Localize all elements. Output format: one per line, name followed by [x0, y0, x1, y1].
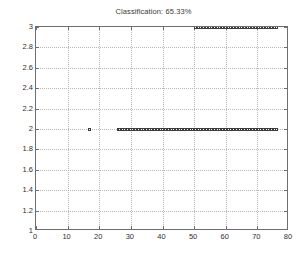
data-point-marker — [47, 230, 50, 231]
data-point-marker — [55, 230, 58, 231]
y-tickmark — [284, 27, 287, 28]
data-point-marker — [79, 230, 82, 231]
y-tickmark — [36, 149, 39, 150]
data-point-marker — [90, 230, 93, 231]
classification-scatter-figure: Classification: 65.33% 01020304050607080… — [0, 0, 307, 260]
y-tick-label: 3 — [29, 22, 33, 31]
data-point-marker — [77, 230, 80, 231]
data-point-marker — [275, 26, 278, 29]
y-tickmark — [284, 149, 287, 150]
data-point-marker — [71, 230, 74, 231]
y-tickmark — [36, 88, 39, 89]
plot-area — [35, 26, 288, 230]
data-point-marker — [63, 230, 66, 231]
y-tick-label: 1.6 — [23, 164, 33, 173]
gridline-horizontal — [36, 47, 287, 48]
x-tick-label: 80 — [284, 232, 292, 241]
data-point-marker — [41, 230, 44, 231]
data-point-marker — [39, 230, 42, 231]
gridline-horizontal — [36, 170, 287, 171]
x-tickmark — [163, 27, 164, 30]
y-tickmark — [284, 88, 287, 89]
x-tickmark — [257, 226, 258, 229]
y-tickmark — [284, 109, 287, 110]
x-tickmark — [163, 226, 164, 229]
x-tick-label: 50 — [189, 232, 197, 241]
x-tick-label: 0 — [33, 232, 37, 241]
data-point-marker — [80, 230, 83, 231]
data-point-marker — [68, 230, 71, 231]
y-tickmark — [36, 109, 39, 110]
y-tickmark — [284, 129, 287, 130]
data-point-marker — [95, 230, 98, 231]
x-tickmark — [131, 27, 132, 30]
y-tick-label: 2.6 — [23, 62, 33, 71]
data-point-marker — [69, 230, 72, 231]
y-tickmark — [36, 47, 39, 48]
gridline-horizontal — [36, 190, 287, 191]
data-point-marker — [49, 230, 52, 231]
data-point-marker — [46, 230, 49, 231]
x-tickmark — [194, 226, 195, 229]
y-tick-label: 2.4 — [23, 83, 33, 92]
data-point-marker — [38, 230, 41, 231]
gridline-vertical — [68, 27, 69, 229]
x-tickmark — [131, 226, 132, 229]
data-point-marker — [110, 230, 113, 231]
data-point-marker — [65, 230, 68, 231]
data-point-marker — [88, 128, 91, 131]
y-tick-label: 2.8 — [23, 42, 33, 51]
data-point-marker — [99, 230, 102, 231]
data-point-marker — [66, 230, 69, 231]
data-point-marker — [87, 230, 90, 231]
data-point-marker — [93, 230, 96, 231]
data-point-marker — [74, 230, 77, 231]
x-tick-label: 20 — [94, 232, 102, 241]
data-point-marker — [96, 230, 99, 231]
x-tickmark — [99, 27, 100, 30]
data-point-marker — [106, 230, 109, 231]
data-point-marker — [115, 230, 118, 231]
data-point-marker — [107, 230, 110, 231]
chart-title: Classification: 65.33% — [0, 7, 307, 16]
y-tickmark — [36, 211, 39, 212]
y-tick-label: 1 — [29, 226, 33, 235]
y-tick-label: 2 — [29, 124, 33, 133]
data-point-marker — [61, 230, 64, 231]
data-point-marker — [109, 230, 112, 231]
gridline-horizontal — [36, 109, 287, 110]
data-point-marker — [72, 230, 75, 231]
data-point-marker — [98, 230, 101, 231]
y-tick-label: 2.2 — [23, 103, 33, 112]
data-point-marker — [91, 230, 94, 231]
y-tickmark — [284, 68, 287, 69]
y-tickmark — [284, 47, 287, 48]
data-point-marker — [44, 230, 47, 231]
data-point-marker — [104, 230, 107, 231]
data-point-marker — [117, 230, 120, 231]
y-tickmark — [284, 190, 287, 191]
data-point-marker — [50, 230, 53, 231]
x-tick-label: 10 — [62, 232, 70, 241]
y-tickmark — [36, 190, 39, 191]
y-tickmark — [284, 211, 287, 212]
data-point-marker — [275, 128, 278, 131]
data-point-marker — [114, 230, 117, 231]
data-point-marker — [58, 230, 61, 231]
y-tickmark — [36, 68, 39, 69]
gridline-horizontal — [36, 149, 287, 150]
gridline-vertical — [99, 27, 100, 229]
y-tickmark — [36, 170, 39, 171]
data-point-marker — [101, 230, 104, 231]
data-point-marker — [88, 230, 91, 231]
gridline-horizontal — [36, 88, 287, 89]
gridline-horizontal — [36, 211, 287, 212]
y-tickmark — [36, 27, 39, 28]
data-point-marker — [53, 230, 56, 231]
x-tick-label: 30 — [126, 232, 134, 241]
data-point-marker — [102, 230, 105, 231]
y-tickmark — [36, 129, 39, 130]
x-tickmark — [68, 27, 69, 30]
y-tick-label: 1.2 — [23, 205, 33, 214]
data-point-marker — [82, 230, 85, 231]
